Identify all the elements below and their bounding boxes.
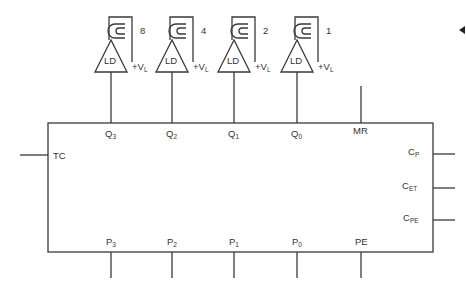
bit-weight: 2 — [263, 25, 268, 36]
right-pin-lines — [433, 154, 455, 220]
arrow-marker-icon — [459, 26, 465, 34]
pin-label-p0: P0 — [292, 236, 302, 248]
pin-label-q2: Q2 — [166, 128, 177, 140]
pin-label-p1: P1 — [229, 236, 239, 248]
led-driver-4: LD 4 +VL — [156, 17, 209, 73]
led-inner-icon — [239, 28, 248, 34]
pin-label-cp: CP — [408, 146, 419, 158]
supply-label: +VL — [318, 61, 334, 73]
pin-label-pe: PE — [355, 236, 368, 247]
bit-weight: 4 — [201, 25, 206, 36]
pin-label-p2: P2 — [167, 236, 177, 248]
bit-weight: 8 — [140, 25, 145, 36]
led-inner-icon — [116, 28, 125, 34]
bottom-pin-lines — [111, 252, 361, 278]
right-pin-labels: CP CET CPE — [402, 146, 419, 224]
supply-label: +VL — [132, 61, 148, 73]
led-inner-icon — [302, 28, 311, 34]
pin-label-p3: P3 — [106, 236, 116, 248]
led-driver-1: LD 1 +VL — [281, 17, 334, 73]
led-driver-2: LD 2 +VL — [218, 17, 271, 73]
ld-label: LD — [104, 55, 116, 66]
pin-label-cpe: CPE — [403, 212, 419, 224]
counter-chip-body — [48, 123, 433, 252]
top-pin-labels: Q3 Q2 Q1 Q0 MR — [105, 125, 368, 140]
bit-weight: 1 — [326, 25, 331, 36]
led-inner-icon — [177, 28, 186, 34]
pin-label-q3: Q3 — [105, 128, 116, 140]
pin-label-q1: Q1 — [228, 128, 239, 140]
ld-label: LD — [290, 55, 302, 66]
supply-label: +VL — [255, 61, 271, 73]
pin-label-mr: MR — [353, 125, 368, 136]
counter-schematic: Q3 Q2 Q1 Q0 MR P3 P2 P1 P0 PE TC CP CET … — [0, 0, 466, 291]
pin-label-tc: TC — [53, 150, 66, 161]
ld-label: LD — [165, 55, 177, 66]
bottom-pin-labels: P3 P2 P1 P0 PE — [106, 236, 368, 248]
pin-label-q0: Q0 — [291, 128, 302, 140]
led-driver-8: LD 8 +VL — [95, 17, 148, 73]
ld-label: LD — [227, 55, 239, 66]
supply-label: +VL — [193, 61, 209, 73]
pin-label-cet: CET — [402, 180, 417, 192]
top-pin-lines — [111, 72, 361, 123]
